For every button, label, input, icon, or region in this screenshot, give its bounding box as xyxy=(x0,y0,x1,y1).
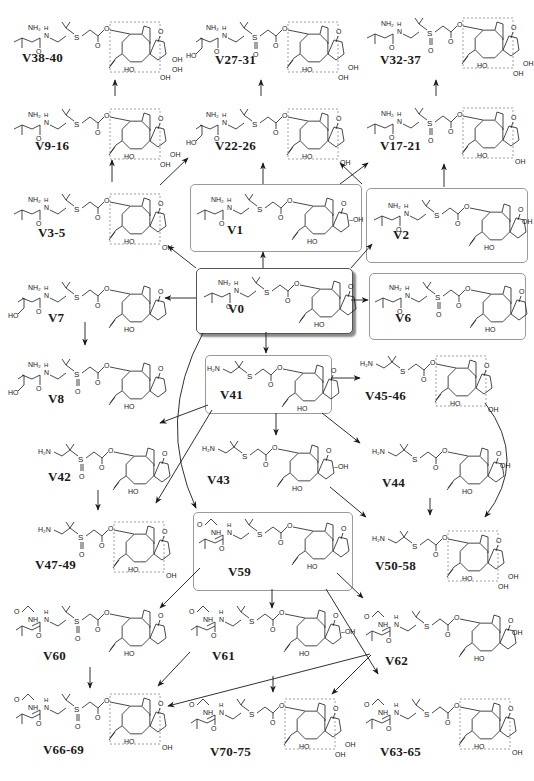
svg-text:O: O xyxy=(282,112,288,119)
svg-text:NH₂: NH₂ xyxy=(28,111,41,118)
svg-text:O: O xyxy=(211,632,217,639)
svg-text:HO: HO xyxy=(124,650,135,657)
modification-region-box xyxy=(448,531,498,581)
svg-text:O: O xyxy=(484,362,490,369)
svg-text:O: O xyxy=(108,525,114,532)
svg-text:O: O xyxy=(508,617,514,624)
compound-label-V22-26: V22-26 xyxy=(215,138,256,154)
svg-text:O: O xyxy=(442,447,448,454)
svg-text:O: O xyxy=(455,220,461,227)
svg-text:OH: OH xyxy=(172,56,183,63)
svg-text:H: H xyxy=(404,203,408,209)
structure-V0: NH₂OHNSOOOHO xyxy=(204,277,356,328)
svg-text:O: O xyxy=(456,302,462,309)
svg-text:HO: HO xyxy=(299,650,310,657)
svg-text:H: H xyxy=(44,197,48,203)
svg-text:N: N xyxy=(44,32,49,39)
svg-text:O: O xyxy=(14,696,20,703)
svg-text:S: S xyxy=(424,710,429,719)
svg-text:NH: NH xyxy=(211,529,221,536)
svg-text:NH₂: NH₂ xyxy=(28,196,41,203)
svg-text:S: S xyxy=(74,293,79,302)
compound-label-V0: V0 xyxy=(228,301,244,317)
svg-text:O: O xyxy=(457,111,463,118)
svg-text:O: O xyxy=(75,635,81,642)
svg-text:O: O xyxy=(341,525,347,532)
svg-text:S: S xyxy=(434,211,439,220)
svg-text:OH: OH xyxy=(498,583,509,590)
compound-label-V3-5: V3-5 xyxy=(38,225,66,241)
svg-text:O: O xyxy=(348,283,354,290)
svg-text:N: N xyxy=(44,616,49,623)
svg-text:O: O xyxy=(428,137,434,144)
svg-text:O: O xyxy=(326,447,332,454)
svg-text:HO: HO xyxy=(297,405,308,412)
compound-label-V62: V62 xyxy=(385,653,408,669)
compound-label-V43: V43 xyxy=(207,472,230,488)
svg-text:S: S xyxy=(264,288,269,297)
svg-text:S: S xyxy=(252,120,257,129)
svg-text:–OH: –OH xyxy=(334,463,348,470)
svg-text:N: N xyxy=(227,204,232,211)
svg-text:O: O xyxy=(197,521,203,528)
svg-text:S: S xyxy=(427,29,432,38)
svg-text:O: O xyxy=(75,388,81,395)
svg-text:HO: HO xyxy=(124,738,135,745)
compound-label-V42: V42 xyxy=(48,469,71,485)
svg-text:–OH: –OH xyxy=(341,628,355,635)
svg-text:O: O xyxy=(75,723,81,730)
svg-text:O: O xyxy=(430,359,436,366)
svg-text:N: N xyxy=(234,287,239,294)
modification-region-box xyxy=(463,108,513,158)
svg-text:O: O xyxy=(333,705,339,712)
svg-text:O: O xyxy=(457,21,463,28)
arrow-V59-to-V62 xyxy=(337,573,363,598)
svg-text:H: H xyxy=(405,285,409,291)
svg-text:O: O xyxy=(287,197,293,204)
compound-label-V32-37: V32-37 xyxy=(380,52,421,68)
compound-label-V70-75: V70-75 xyxy=(210,744,251,760)
svg-text:HO: HO xyxy=(302,66,313,73)
svg-text:N: N xyxy=(219,709,224,716)
svg-text:S: S xyxy=(257,530,262,539)
structure-V59: ONHOHNSOOOHO xyxy=(197,519,349,570)
svg-text:O: O xyxy=(454,702,460,709)
svg-text:HO: HO xyxy=(124,403,135,410)
svg-text:NH₂: NH₂ xyxy=(28,361,41,368)
svg-text:HO: HO xyxy=(8,312,19,319)
compound-label-V8: V8 xyxy=(48,391,64,407)
modification-region-box xyxy=(285,699,335,749)
svg-text:N: N xyxy=(394,621,399,628)
svg-text:H: H xyxy=(222,112,226,118)
svg-text:O: O xyxy=(336,115,342,122)
svg-text:H₂N: H₂N xyxy=(38,448,51,455)
svg-text:N: N xyxy=(405,292,410,299)
svg-text:O: O xyxy=(272,444,278,451)
svg-text:HO: HO xyxy=(292,485,303,492)
svg-text:O: O xyxy=(386,637,392,644)
svg-text:H: H xyxy=(234,280,238,286)
svg-text:OH: OH xyxy=(160,74,171,81)
svg-text:OH: OH xyxy=(512,749,523,756)
svg-text:NH: NH xyxy=(203,709,213,716)
svg-text:O: O xyxy=(278,214,284,221)
structures-and-arrows: NH₂OHNSOOOHOOHOHOHNH₂HOOHNSOOOOHOOHOHNH₂… xyxy=(0,0,534,781)
svg-text:O: O xyxy=(448,128,454,135)
svg-text:H: H xyxy=(219,702,223,708)
modification-region-box xyxy=(288,109,338,159)
arrow-V43-to-V50-58 xyxy=(330,487,366,517)
svg-text:O: O xyxy=(36,385,42,392)
arrow-V41-to-V42 xyxy=(160,405,208,423)
svg-text:S: S xyxy=(257,205,262,214)
svg-text:O: O xyxy=(282,25,288,32)
svg-text:O: O xyxy=(219,545,225,552)
compound-label-V2: V2 xyxy=(393,227,409,243)
svg-text:S: S xyxy=(74,33,79,42)
svg-text:OH: OH xyxy=(345,741,356,748)
svg-text:NH: NH xyxy=(378,621,388,628)
svg-text:S: S xyxy=(435,293,440,302)
svg-text:N: N xyxy=(44,292,49,299)
svg-text:S: S xyxy=(247,372,252,381)
svg-text:O: O xyxy=(95,214,101,221)
svg-text:HO: HO xyxy=(186,139,197,146)
